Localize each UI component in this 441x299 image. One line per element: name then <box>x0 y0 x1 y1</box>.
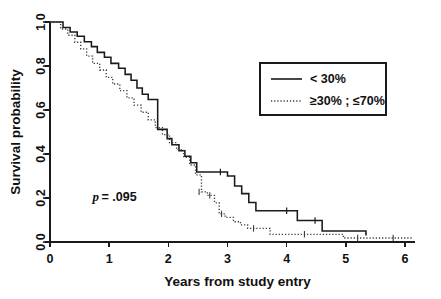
y-tick-label: 0.8 <box>34 57 48 74</box>
p-value-text: = .095 <box>102 190 137 204</box>
p-value-symbol: p <box>92 189 100 204</box>
y-tick-label: 0.4 <box>34 145 48 162</box>
y-tick-label: 0.2 <box>34 189 48 206</box>
x-tick-label: 6 <box>402 252 409 266</box>
x-tick-label: 3 <box>224 252 231 266</box>
y-tick-label: 0.0 <box>34 233 48 250</box>
x-axis-title: Years from study entry <box>164 274 311 289</box>
p-value-annotation: p = .095 <box>92 189 137 204</box>
x-tick-label: 0 <box>47 252 54 266</box>
x-tick-label: 2 <box>165 252 172 266</box>
x-tick-label: 5 <box>342 252 349 266</box>
y-axis-title: Survival probability <box>8 69 23 195</box>
x-tick-label: 1 <box>106 252 113 266</box>
x-tick-label: 4 <box>283 252 290 266</box>
legend-label-2[interactable]: ≥30% ; ≤70% <box>310 94 385 108</box>
chart-background <box>0 0 441 299</box>
y-tick-label: 0.6 <box>34 101 48 118</box>
survival-chart-svg: 0.00.20.40.60.81.0 0123456 < 30%≥30% ; ≤… <box>0 0 441 299</box>
legend[interactable]: < 30%≥30% ; ≤70% <box>260 63 386 115</box>
kaplan-meier-figure: 0.00.20.40.60.81.0 0123456 < 30%≥30% ; ≤… <box>0 0 441 299</box>
y-tick-label: 1.0 <box>34 13 48 30</box>
legend-label-1[interactable]: < 30% <box>310 72 346 86</box>
